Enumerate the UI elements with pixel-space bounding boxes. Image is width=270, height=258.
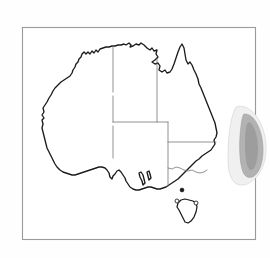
marker-open-west-tasmania[interactable]: [175, 199, 179, 203]
grey-shaded-region: [228, 106, 266, 185]
australia-map-figure: [0, 0, 270, 258]
marker-filled-south-coast[interactable]: [180, 188, 184, 192]
figure-root: [0, 0, 270, 258]
marker-open-east-tasmania[interactable]: [194, 201, 198, 205]
